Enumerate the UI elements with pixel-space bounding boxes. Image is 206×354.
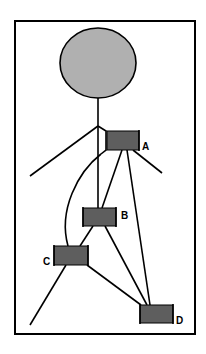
node-label-A: A bbox=[142, 141, 149, 152]
node-label-D: D bbox=[176, 315, 183, 326]
node-label-B: B bbox=[121, 210, 128, 221]
node-label-C: C bbox=[43, 256, 50, 267]
root-node bbox=[60, 28, 136, 98]
network-diagram: A B C D bbox=[0, 0, 206, 354]
